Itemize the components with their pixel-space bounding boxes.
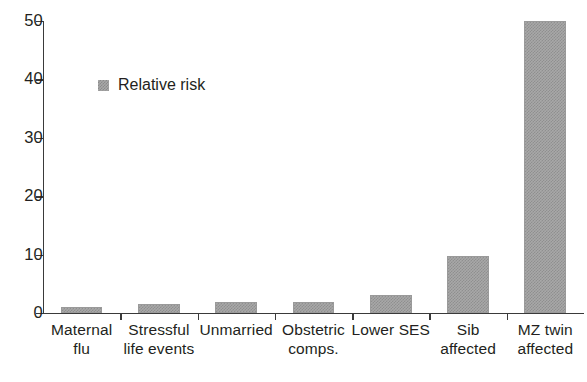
- bar: [138, 304, 180, 313]
- legend: Relative risk: [98, 77, 205, 93]
- bar: [370, 295, 412, 313]
- bar: [524, 21, 566, 313]
- y-axis-tick-label: 50: [9, 12, 43, 29]
- filled-square-icon: [98, 80, 109, 91]
- bar: [447, 256, 489, 313]
- bar-chart: 01020304050 MaternalfluStressfullife eve…: [0, 0, 587, 382]
- y-axis-tick-label: 0: [9, 304, 43, 321]
- bar: [61, 307, 103, 313]
- y-axis-tick-label: 30: [9, 129, 43, 146]
- y-axis-tick-label: 40: [9, 70, 43, 87]
- plot-area: [43, 21, 584, 313]
- category-label-line-2: affected: [493, 339, 587, 358]
- y-axis-tick-label: 20: [9, 187, 43, 204]
- bar: [293, 302, 335, 313]
- legend-label: Relative risk: [118, 77, 205, 93]
- y-axis-tick-label: 10: [9, 246, 43, 263]
- x-axis-category-label: MZ twinaffected: [493, 320, 587, 358]
- category-label-line-1: MZ twin: [493, 320, 587, 339]
- category-label-line-2: comps.: [261, 339, 366, 358]
- bar: [215, 302, 257, 313]
- category-label-line-2: life events: [106, 339, 211, 358]
